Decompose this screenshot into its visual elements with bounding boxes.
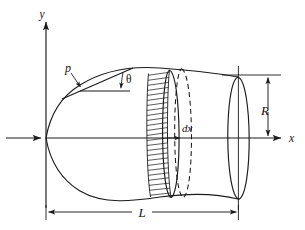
figure-container: y x (0, 0, 305, 230)
radius-dimension (222, 75, 281, 136)
tangent-line (62, 68, 133, 99)
radius-label: R (260, 103, 269, 118)
dx-marker (168, 134, 181, 144)
tangent-construction (62, 68, 133, 99)
diagram-svg: y x (0, 0, 305, 230)
pressure-leader-line (71, 73, 81, 87)
theta-label: θ (126, 73, 132, 85)
y-axis-label: y (38, 8, 45, 21)
pressure-label: p (64, 61, 71, 75)
body-outline-group (46, 68, 238, 201)
length-label: L (137, 205, 145, 220)
strip-front-edge (167, 70, 171, 197)
element-front-ellipse (163, 70, 179, 197)
dx-label: dx (182, 122, 193, 134)
x-axis-label: x (288, 132, 295, 144)
hatched-strip (143, 67, 175, 202)
body-lower-contour (46, 138, 238, 201)
theta-arc (121, 73, 123, 89)
axis-group (46, 22, 281, 208)
